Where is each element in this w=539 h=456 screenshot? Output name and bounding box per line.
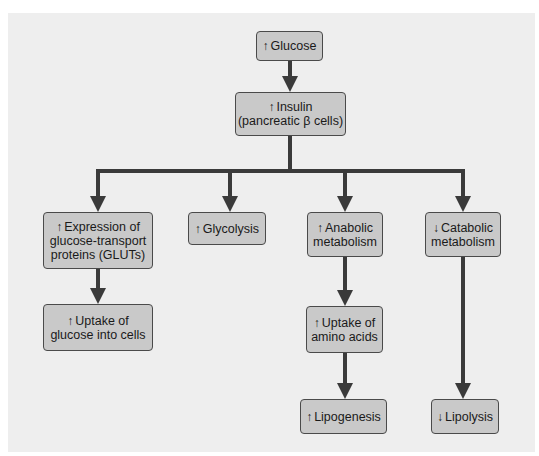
- node-uptake-glucose: ↑Uptake of glucose into cells: [43, 304, 153, 351]
- node-gluts: ↑Expression of glucose-transport protein…: [43, 212, 153, 269]
- node-lipolysis: ↓Lipolysis: [431, 399, 499, 434]
- up-arrow-icon: ↑: [195, 222, 201, 236]
- down-arrow-icon: ↓: [437, 410, 443, 424]
- up-arrow-icon: ↑: [268, 100, 274, 114]
- node-glucose: ↑Glucose: [256, 31, 323, 61]
- up-arrow-icon: ↑: [306, 410, 312, 424]
- node-catabolic: ↓Catabolic metabolism: [425, 212, 501, 257]
- node-anabolic: ↑Anabolic metabolism: [307, 212, 383, 257]
- node-insulin: ↑Insulin (pancreatic β cells): [235, 92, 346, 136]
- node-lipogenesis: ↑Lipogenesis: [300, 399, 387, 434]
- down-arrow-icon: ↓: [433, 221, 439, 235]
- up-arrow-icon: ↑: [317, 221, 323, 235]
- up-arrow-icon: ↑: [67, 314, 73, 328]
- node-uptake-amino: ↑Uptake of amino acids: [306, 306, 383, 353]
- up-arrow-icon: ↑: [314, 316, 320, 330]
- up-arrow-icon: ↑: [263, 39, 269, 53]
- up-arrow-icon: ↑: [56, 220, 62, 234]
- node-glycolysis: ↑Glycolysis: [188, 212, 266, 245]
